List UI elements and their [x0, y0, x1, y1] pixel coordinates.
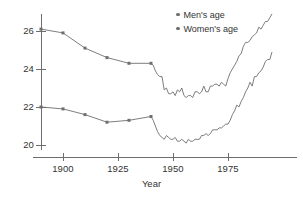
series-marker — [62, 107, 65, 110]
series-marker — [84, 47, 87, 50]
y-tick-label-22: 22 — [6, 101, 34, 112]
series-marker — [128, 62, 131, 65]
series-line-womens-age — [41, 52, 272, 143]
chart-container: 20222426 1900192519501975 Year Men's age… — [0, 0, 303, 199]
x-tick-label-1900: 1900 — [43, 163, 83, 174]
series-marker — [150, 62, 153, 65]
series-marker — [150, 115, 153, 118]
series-marker — [106, 121, 109, 124]
x-axis-title: Year — [0, 178, 303, 189]
legend-marker-icon — [176, 27, 180, 31]
y-tick-label-20: 20 — [6, 139, 34, 150]
axis-lines — [33, 14, 297, 157]
series-marker — [62, 31, 65, 34]
chart-legend: Men's age Women's age — [176, 9, 238, 34]
series-marker — [84, 113, 87, 116]
tick-marks — [36, 31, 228, 161]
x-tick-label-1925: 1925 — [98, 163, 138, 174]
legend-item-mens-age: Men's age — [176, 9, 238, 20]
series-marker — [40, 28, 43, 31]
legend-item-womens-age: Women's age — [176, 23, 238, 34]
series-marker — [106, 56, 109, 59]
series-markers — [40, 28, 153, 124]
legend-marker-icon — [176, 13, 180, 17]
legend-label-mens-age: Men's age — [184, 10, 225, 20]
legend-label-womens-age: Women's age — [184, 24, 239, 34]
x-tick-label-1975: 1975 — [208, 163, 248, 174]
series-marker — [40, 106, 43, 109]
y-tick-label-26: 26 — [6, 25, 34, 36]
x-tick-label-1950: 1950 — [153, 163, 193, 174]
y-tick-label-24: 24 — [6, 63, 34, 74]
series-marker — [128, 119, 131, 122]
